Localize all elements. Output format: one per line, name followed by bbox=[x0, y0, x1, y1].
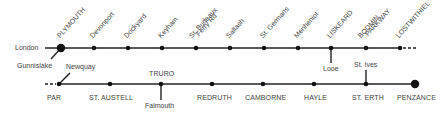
label-gunnislake: Gunnislake bbox=[17, 62, 52, 69]
newquay-branch-line bbox=[59, 73, 70, 84]
station-dot-camborne bbox=[261, 82, 266, 87]
station-dot-keyham bbox=[160, 46, 165, 51]
label-st-erth: ST. ERTH bbox=[352, 94, 384, 101]
station-dot-menheniot bbox=[296, 46, 301, 51]
station-dot-devonport bbox=[92, 46, 97, 51]
label-camborne: CAMBORNE bbox=[245, 94, 286, 101]
station-dot-st-austell bbox=[108, 82, 113, 87]
station-dot-st-erth bbox=[364, 82, 369, 87]
railway-route-diagram: London Gunnislake Newquay Looe St. Ives … bbox=[0, 0, 448, 117]
label-newquay: Newquay bbox=[66, 63, 95, 70]
label-penzance: PENZANCE bbox=[397, 94, 436, 101]
station-dot-hayle bbox=[312, 82, 317, 87]
label-st-austell: ST. AUSTELL bbox=[89, 94, 133, 101]
label-redruth: REDRUTH bbox=[197, 94, 232, 101]
label-par: PAR bbox=[47, 94, 61, 101]
station-dot-saltash bbox=[228, 46, 233, 51]
label-hayle: HAYLE bbox=[304, 94, 327, 101]
station-dot-lostwithiel bbox=[398, 46, 403, 51]
station-dot-truro bbox=[159, 82, 164, 87]
station-dot-plymouth bbox=[57, 44, 65, 52]
station-dot-st-germans bbox=[262, 46, 267, 51]
label-st-ives: St. Ives bbox=[354, 61, 377, 68]
station-dot-bodmin-parkway bbox=[364, 46, 369, 51]
station-dot-par bbox=[57, 82, 62, 87]
label-truro: TRURO bbox=[149, 70, 174, 77]
station-dot-st-budeaux bbox=[194, 46, 199, 51]
label-london: London bbox=[15, 44, 38, 51]
station-dot-dockyard bbox=[126, 46, 131, 51]
station-dot-penzance bbox=[411, 80, 419, 88]
label-falmouth: Falmouth bbox=[145, 102, 174, 109]
station-dot-liskeard bbox=[329, 46, 334, 51]
label-looe: Looe bbox=[323, 65, 339, 72]
station-dot-redruth bbox=[210, 82, 215, 87]
